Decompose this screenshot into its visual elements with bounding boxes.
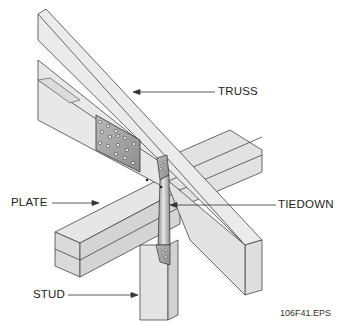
stud-arrow-icon bbox=[131, 293, 138, 298]
label-stud: STUD bbox=[33, 288, 65, 300]
label-truss: TRUSS bbox=[218, 85, 258, 97]
truss-tiedown-diagram bbox=[0, 0, 347, 332]
label-tiedown: TIEDOWN bbox=[278, 198, 334, 210]
plate-arrow-icon bbox=[92, 201, 99, 206]
figure-caption: 106F41.EPS bbox=[280, 308, 331, 318]
truss-arrow-icon bbox=[133, 90, 140, 95]
label-plate: PLATE bbox=[11, 196, 48, 208]
